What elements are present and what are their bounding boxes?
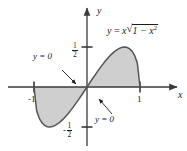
x-tick-label-one: 1 xyxy=(137,95,142,104)
fraction-numerator: 1 xyxy=(72,42,78,50)
fraction-one-half-negative: 1 2 xyxy=(67,122,73,138)
fraction-one-half: 1 2 xyxy=(72,42,78,58)
radicand-base: 1 − x xyxy=(133,25,154,36)
y-tick-label-half: 1 2 xyxy=(72,41,78,58)
y-tick-label-minus-half: - 1 2 xyxy=(63,121,72,138)
figure-container: y x -1 1 1 2 - 1 2 y = x√1 − x2 y = 0 y … xyxy=(0,0,187,151)
annotation-arrow-left xyxy=(62,70,76,84)
square-root-expression: √1 − x2 xyxy=(127,24,158,36)
equation-label: y = x√1 − x2 xyxy=(107,24,158,36)
annotation-arrow-right xyxy=(99,99,112,114)
fraction-denominator: 2 xyxy=(72,50,78,59)
y-axis-label: y xyxy=(97,6,101,16)
radicand-exponent: 2 xyxy=(154,24,157,31)
fraction-numerator: 1 xyxy=(67,122,73,130)
annotation-label-y-zero-left: y = 0 xyxy=(33,52,52,61)
plot-canvas xyxy=(0,0,187,151)
radical-sign: √ xyxy=(127,23,133,34)
x-tick-label-minus-one: -1 xyxy=(28,95,36,104)
annotation-label-y-zero-right: y = 0 xyxy=(95,115,114,124)
fraction-denominator: 2 xyxy=(67,130,73,139)
x-axis-label: x xyxy=(178,90,182,100)
radicand: 1 − x2 xyxy=(132,24,158,36)
